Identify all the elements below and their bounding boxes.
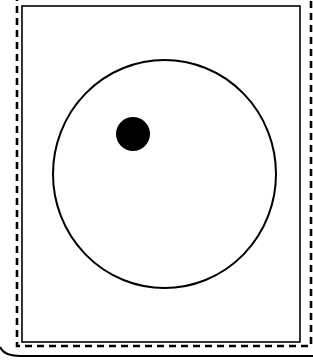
diagram-canvas <box>0 0 313 362</box>
background <box>0 0 313 362</box>
filled-dot <box>116 117 150 151</box>
